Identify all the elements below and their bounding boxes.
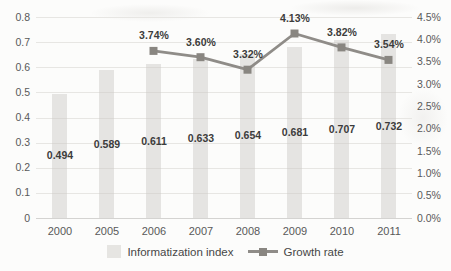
left-axis-tick: 0 [0,212,30,225]
right-axis-tick: 4.5% [417,11,451,24]
x-axis-tick-label: 2008 [223,225,273,238]
right-axis-tick: 4.0% [417,33,451,46]
right-axis-tick: 1.5% [417,145,451,158]
line-marker [338,43,346,51]
right-axis-tick: 2.0% [417,122,451,135]
bar-value-label: 0.589 [84,138,130,151]
legend-item: Growth rate [248,246,344,258]
bar-value-label: 0.732 [366,120,412,133]
line-value-label: 3.74% [131,29,177,42]
right-axis-tick: 3.0% [417,78,451,91]
left-axis-tick: 0.6 [0,61,30,74]
line-marker [385,56,393,64]
legend-label: Informatization index [127,246,233,258]
left-axis-tick: 0.8 [0,11,30,24]
bar-swatch-icon [107,245,121,258]
line-value-label: 4.13% [272,12,318,25]
legend-item: Informatization index [107,245,233,258]
bar-value-label: 0.707 [319,123,365,136]
left-axis-tick: 0.4 [0,111,30,124]
left-axis-tick: 0.2 [0,161,30,174]
left-axis-tick: 0.1 [0,186,30,199]
right-axis-tick: 1.0% [417,167,451,180]
line-swatch-icon [248,250,278,253]
bar-value-label: 0.654 [225,129,271,142]
legend: Informatization indexGrowth rate [0,245,451,258]
left-axis-tick: 0.3 [0,136,30,149]
x-axis-tick-label: 2000 [35,225,85,238]
plot-area: 0.4940.5890.6110.6330.6540.6810.7070.732… [36,17,412,219]
bar-value-label: 0.611 [131,135,177,148]
x-axis-tick-label: 2005 [82,225,132,238]
line-value-label: 3.32% [225,48,271,61]
left-axis-tick: 0.5 [0,86,30,99]
line-marker [197,53,205,61]
legend-label: Growth rate [284,246,344,258]
left-axis-tick: 0.7 [0,36,30,49]
x-axis-tick-label: 2006 [129,225,179,238]
line-value-label: 3.54% [366,38,412,51]
bar-value-label: 0.494 [37,149,83,162]
bar-value-label: 0.633 [178,132,224,145]
x-axis-tick-label: 2011 [364,225,414,238]
x-axis-tick-label: 2009 [270,225,320,238]
line-marker-icon [259,248,267,256]
right-axis-tick: 0.5% [417,189,451,202]
x-axis-tick-label: 2007 [176,225,226,238]
line-value-label: 3.82% [319,26,365,39]
bar-value-label: 0.681 [272,126,318,139]
line-value-label: 3.60% [178,36,224,49]
line-marker [244,66,252,74]
line-marker [291,30,299,38]
line-marker [150,47,158,55]
line-series [36,17,412,218]
right-axis-tick: 0.0% [417,212,451,225]
right-axis-tick: 2.5% [417,100,451,113]
right-axis-tick: 3.5% [417,55,451,68]
combo-chart-figure: 00.10.20.30.40.50.60.70.8 0.0%0.5%1.0%1.… [0,0,451,271]
x-axis-tick-label: 2010 [317,225,367,238]
